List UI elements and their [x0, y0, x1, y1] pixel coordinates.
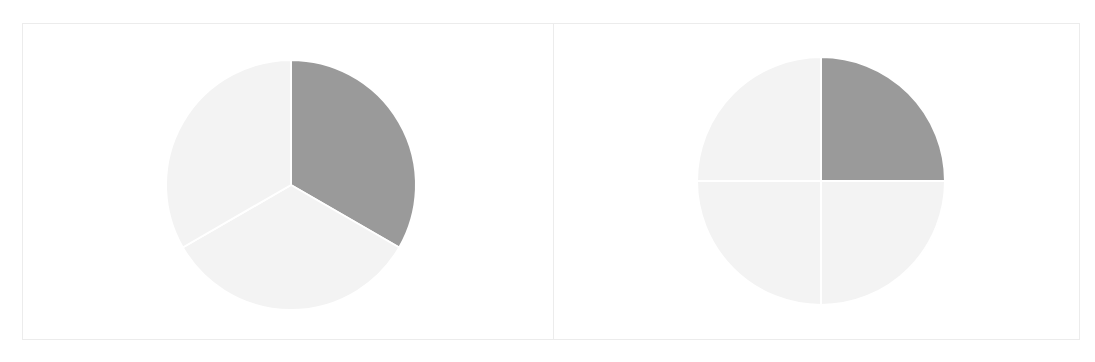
fraction-pies-figure: [0, 0, 1095, 362]
quarters-panel: [553, 23, 1080, 340]
unshaded-slice: [697, 181, 821, 305]
shaded-slice: [821, 57, 945, 181]
unshaded-slice: [697, 57, 821, 181]
quarters-pie-chart: [554, 24, 1081, 341]
unshaded-slice: [821, 181, 945, 305]
thirds-panel: [22, 23, 554, 340]
thirds-pie-chart: [23, 24, 555, 341]
